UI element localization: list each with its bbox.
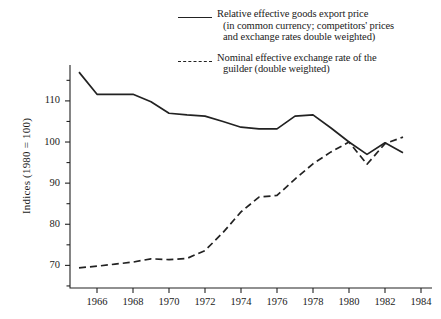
plot-area: Indices (1980 = 100) 708090100110 196619…	[0, 0, 441, 319]
series-line-exchange-rate	[79, 137, 403, 268]
x-axis-tick-label: 1972	[185, 297, 225, 308]
series-line-export-price	[79, 72, 403, 154]
y-axis-title: Indices (1980 = 100)	[20, 91, 32, 241]
x-axis-tick-label: 1966	[77, 297, 117, 308]
x-axis-tick-label: 1980	[329, 297, 369, 308]
axis-spines	[70, 65, 432, 288]
chart-page: Relative effective goods export price (i…	[0, 0, 441, 319]
x-axis-tick-label: 1984	[401, 297, 441, 308]
x-axis-tick-label: 1970	[149, 297, 189, 308]
x-axis-tick-label: 1982	[365, 297, 405, 308]
x-axis-tick-label: 1976	[257, 297, 297, 308]
chart-svg	[0, 0, 441, 319]
y-axis-tick-label: 90	[34, 178, 60, 189]
x-axis-tick-label: 1978	[293, 297, 333, 308]
x-axis-tick-label: 1968	[113, 297, 153, 308]
y-axis-tick-label: 80	[34, 219, 60, 230]
x-axis-tick-label: 1974	[221, 297, 261, 308]
y-axis-tick-label: 110	[34, 95, 60, 106]
y-axis-tick-label: 100	[34, 137, 60, 148]
y-axis-tick-label: 70	[34, 260, 60, 271]
